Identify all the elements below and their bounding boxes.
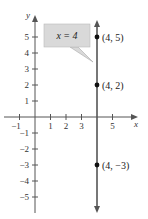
point-label: (4, 2) [102,80,124,92]
y-axis-arrow-icon [32,15,38,22]
callout-pointer [70,47,93,62]
y-tick-label: −4 [19,176,29,186]
y-tick-label: 3 [25,64,30,74]
x-tick-label: 1 [48,121,53,131]
point-4-neg3 [95,163,100,168]
y-tick-label: −2 [19,144,29,154]
x-tick-label: 2 [64,121,69,131]
callout-label: x = 4 [55,30,77,41]
y-tick-label: −5 [19,192,29,202]
callout-box: x = 4 [44,24,93,62]
point-label: (4, −3) [102,160,129,172]
line-arrow-down-icon [94,206,100,213]
y-tick-label: 4 [25,48,30,58]
data-points: (4, 5) (4, 2) (4, −3) [95,32,130,172]
line-arrow-up-icon [94,20,100,27]
y-tick-label: 1 [25,96,30,106]
point-4-2 [95,83,100,88]
point-4-5 [95,35,100,40]
y-axis: y 5 4 3 2 1 −1 −2 −3 −4 −5 [19,10,38,213]
y-tick-label: −3 [19,160,29,170]
x-tick-label: 5 [110,121,115,131]
y-axis-label: y [25,10,30,20]
y-tick-label: −1 [19,128,29,138]
y-tick-label: 5 [25,32,30,42]
x-tick-label: 3 [79,121,84,131]
point-label: (4, 5) [102,32,124,44]
x-axis-label: x [133,119,138,129]
y-tick-label: 2 [25,80,30,90]
coordinate-plane: −1 1 2 3 5 x y 5 4 3 2 1 −1 −2 −3 −4 −5 [0,0,148,219]
